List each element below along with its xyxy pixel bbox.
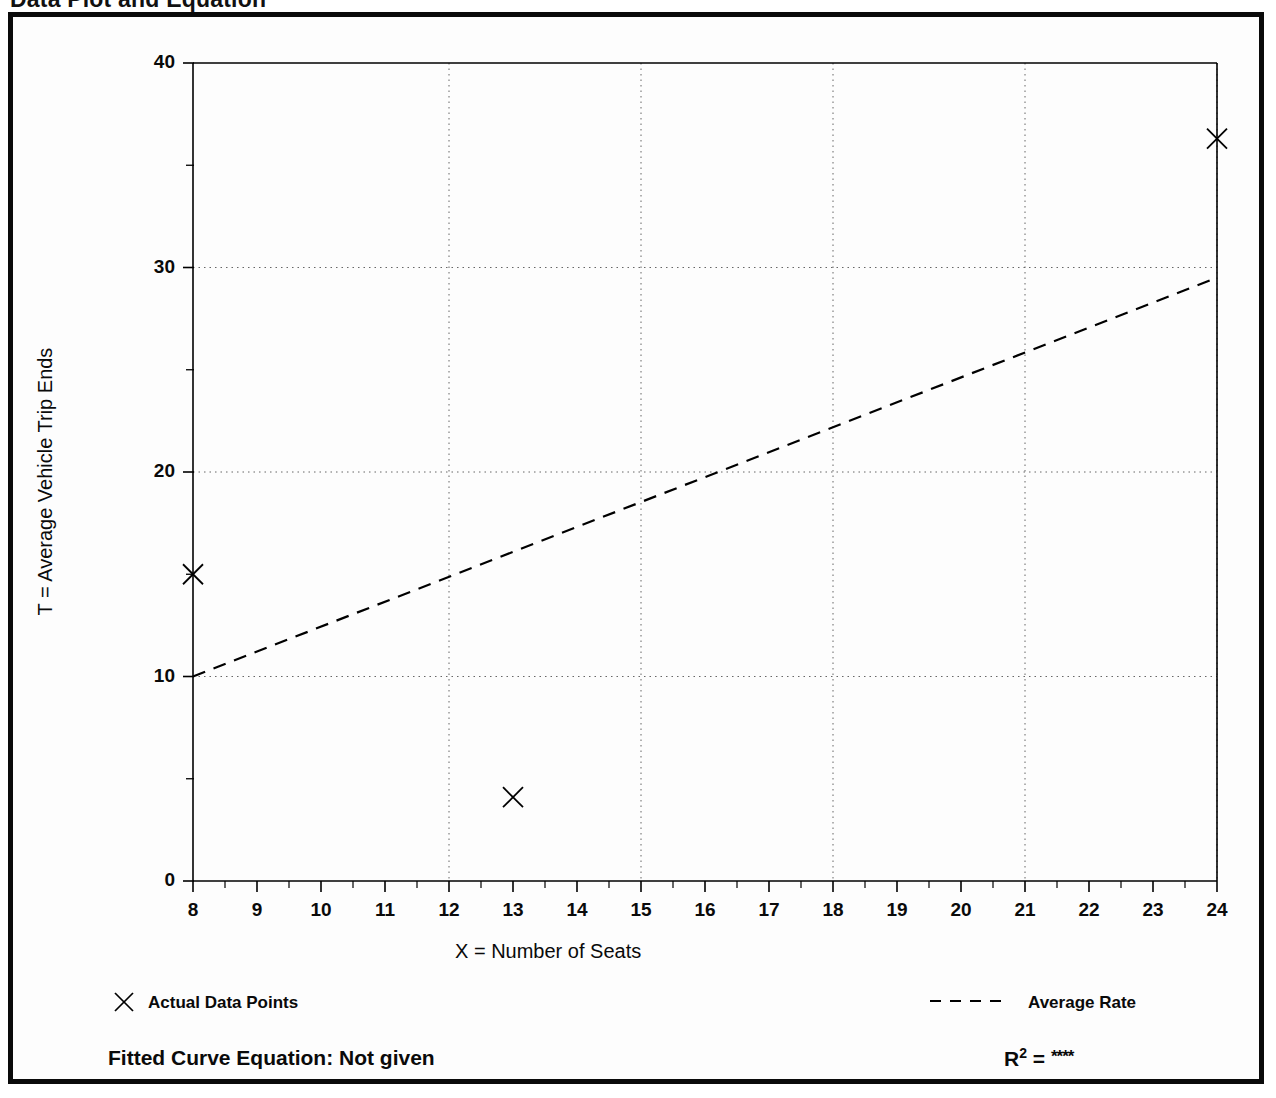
x-tick-label: 11	[365, 899, 405, 921]
x-tick-label: 18	[813, 899, 853, 921]
x-tick-label: 20	[941, 899, 981, 921]
x-tick-label: 13	[493, 899, 533, 921]
y-axis-title: T = Average Vehicle Trip Ends	[34, 317, 57, 647]
x-tick-label: 24	[1197, 899, 1237, 921]
r-squared-stars: ****	[1051, 1047, 1073, 1066]
r-squared-exponent: 2	[1019, 1045, 1027, 1061]
x-tick-label: 9	[237, 899, 277, 921]
y-tick-label: 40	[135, 51, 175, 73]
x-tick-label: 10	[301, 899, 341, 921]
x-tick-label: 19	[877, 899, 917, 921]
x-tick-label: 17	[749, 899, 789, 921]
x-tick-label: 12	[429, 899, 469, 921]
figure-frame	[8, 12, 1264, 1084]
x-tick-label: 14	[557, 899, 597, 921]
legend-label-average-rate: Average Rate	[1028, 993, 1136, 1013]
fitted-curve-equation: Fitted Curve Equation: Not given	[108, 1046, 435, 1070]
x-tick-label: 22	[1069, 899, 1109, 921]
y-tick-label: 20	[135, 460, 175, 482]
r-squared-value: R2 = ****	[1004, 1045, 1073, 1071]
x-tick-label: 8	[173, 899, 213, 921]
legend-label-actual-data-points: Actual Data Points	[148, 993, 298, 1013]
x-tick-label: 16	[685, 899, 725, 921]
x-tick-label: 15	[621, 899, 661, 921]
y-tick-label: 0	[135, 869, 175, 891]
r-squared-symbol: R	[1004, 1047, 1019, 1070]
r-squared-equals: =	[1027, 1047, 1051, 1070]
x-tick-label: 21	[1005, 899, 1045, 921]
x-tick-label: 23	[1133, 899, 1173, 921]
y-tick-label: 30	[135, 256, 175, 278]
x-axis-title: X = Number of Seats	[455, 940, 641, 963]
y-tick-label: 10	[135, 665, 175, 687]
